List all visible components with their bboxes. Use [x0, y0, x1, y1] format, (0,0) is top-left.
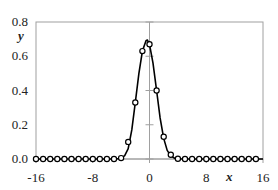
data-point-marker [232, 156, 237, 161]
chart: 0.00.20.40.60.8 -16-80816 y x [0, 0, 278, 190]
y-tick-label: 0.2 [12, 117, 28, 132]
data-point-marker [161, 134, 166, 139]
data-point-marker [218, 156, 223, 161]
data-point-marker [225, 156, 230, 161]
y-tick-label: 0.4 [12, 83, 29, 98]
data-point-marker [204, 156, 209, 161]
data-point-marker [190, 156, 195, 161]
y-tick-label: 0.6 [12, 48, 29, 63]
data-point-marker [76, 156, 81, 161]
data-point-marker [246, 156, 251, 161]
y-axis-title: y [16, 28, 24, 43]
x-tick-label: 8 [203, 170, 210, 185]
data-point-marker [133, 100, 138, 105]
data-point-marker [147, 42, 152, 47]
data-point-marker [48, 156, 53, 161]
data-point-marker [140, 49, 145, 54]
data-point-marker [154, 88, 159, 93]
data-point-marker [33, 156, 38, 161]
data-point-marker [197, 156, 202, 161]
data-point-marker [168, 152, 173, 157]
data-point-marker [175, 156, 180, 161]
x-tick-labels: -16-80816 [27, 170, 270, 185]
data-markers [33, 42, 258, 162]
x-tick-label: 0 [146, 170, 153, 185]
data-point-marker [253, 156, 258, 161]
data-point-marker [55, 156, 60, 161]
data-point-marker [182, 156, 187, 161]
x-axis-title: x [225, 169, 233, 184]
data-point-marker [62, 156, 67, 161]
data-point-marker [211, 156, 216, 161]
data-point-marker [126, 139, 131, 144]
data-point-marker [69, 156, 74, 161]
x-tick-label: -8 [87, 170, 98, 185]
data-point-marker [83, 156, 88, 161]
data-point-marker [97, 156, 102, 161]
y-tick-label: 0.8 [12, 14, 28, 29]
data-point-marker [239, 156, 244, 161]
data-point-marker [111, 156, 116, 161]
data-point-marker [90, 156, 95, 161]
data-point-marker [41, 156, 46, 161]
x-tick-label: -16 [27, 170, 45, 185]
y-tick-label: 0.0 [12, 151, 28, 166]
x-tick-label: 16 [257, 170, 271, 185]
data-point-marker [119, 156, 124, 161]
data-point-marker [104, 156, 109, 161]
